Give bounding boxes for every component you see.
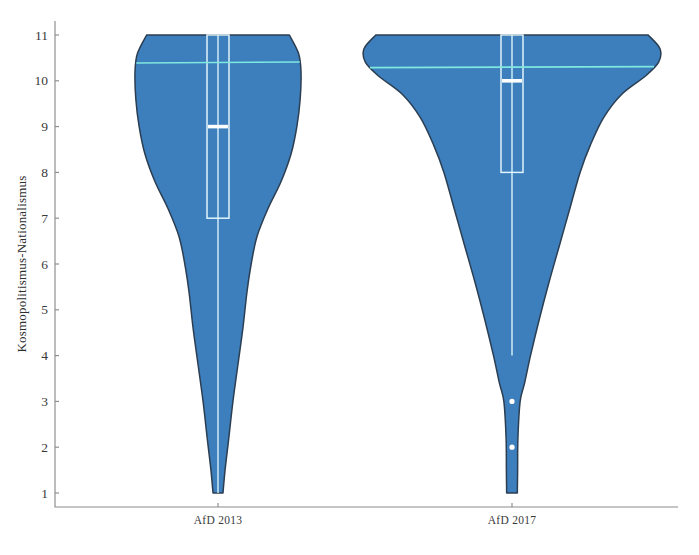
- y-tick-label: 8: [41, 165, 48, 180]
- violin-plot-figure: 1234567891011Kosmopolitismus-Nationalism…: [0, 0, 699, 555]
- y-tick-label: 11: [35, 28, 48, 43]
- y-tick-label: 3: [41, 394, 48, 409]
- outlier-point: [509, 399, 514, 404]
- y-tick-label: 9: [41, 119, 48, 134]
- chart-canvas: 1234567891011Kosmopolitismus-Nationalism…: [0, 0, 699, 555]
- y-tick-label: 5: [41, 302, 48, 317]
- y-axis-title: Kosmopolitismus-Nationalismus: [14, 176, 29, 353]
- y-tick-label: 7: [41, 211, 48, 226]
- outlier-point: [509, 445, 514, 450]
- y-tick-label: 10: [35, 73, 49, 88]
- violin-1: [135, 35, 301, 493]
- y-tick-label: 1: [41, 486, 48, 501]
- y-tick-label: 6: [41, 257, 48, 272]
- x-tick-label: AfD 2013: [194, 514, 243, 526]
- x-tick-label: AfD 2017: [488, 514, 537, 526]
- violin-2: [363, 35, 661, 493]
- mean-marker: [370, 67, 654, 68]
- y-tick-label: 4: [41, 348, 48, 363]
- y-tick-label: 2: [41, 440, 48, 455]
- mean-marker: [136, 62, 300, 63]
